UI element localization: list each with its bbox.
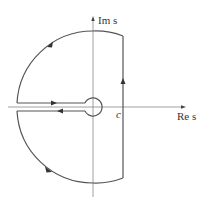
- right-arrow-icon: [51, 101, 57, 106]
- real-axis-label: Re s: [177, 110, 196, 122]
- imag-axis-label: Im s: [98, 14, 117, 26]
- point-c-label: c: [116, 108, 121, 120]
- contour-diagram: Im s Re s c: [0, 0, 208, 197]
- contour-lower-arc: [17, 111, 123, 183]
- left-arrow-icon: [57, 109, 63, 114]
- contour-upper-arc: [17, 31, 123, 103]
- imag-axis-arrow-icon: [91, 16, 94, 21]
- up-arrow-icon: [121, 78, 126, 84]
- real-axis-arrow-icon: [181, 105, 186, 108]
- lower-arc-arrow-icon: [45, 167, 52, 173]
- upper-arc-arrow-icon: [47, 42, 53, 48]
